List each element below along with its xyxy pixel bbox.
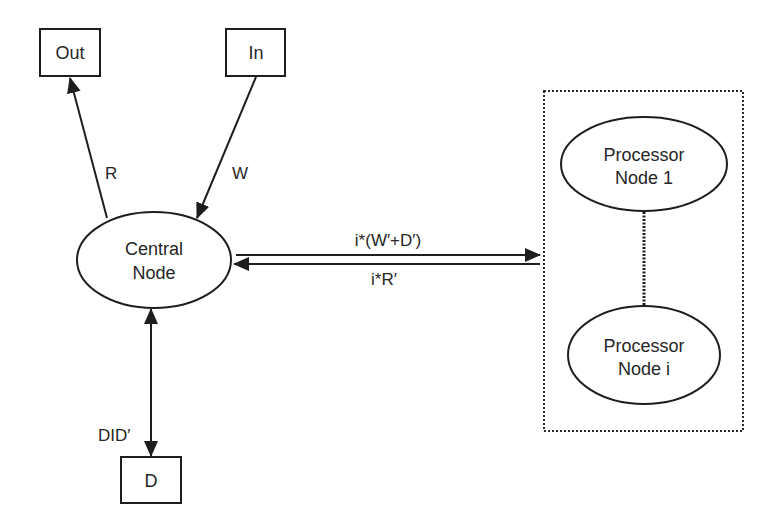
edge-label-read: i*R′ <box>371 270 397 289</box>
processor-node-1-line1: Processor <box>603 145 684 165</box>
processor-node-1-line2: Node 1 <box>615 168 673 188</box>
arrow-down-icon <box>197 77 256 218</box>
d-node-label: D <box>145 471 158 491</box>
central-node-line2: Node <box>132 263 175 283</box>
edge-processors-to-central: i*R′ <box>234 264 540 289</box>
in-node-label: In <box>248 43 263 63</box>
out-node-label: Out <box>55 43 84 63</box>
processor-group: Processor Node 1 Processor Node i <box>544 91 743 431</box>
processor-node-1: Processor Node 1 <box>561 117 727 211</box>
d-node: D <box>121 457 181 503</box>
out-node: Out <box>40 29 100 76</box>
edge-label-write: i*(W′+D′) <box>355 231 421 250</box>
processor-node-i-line1: Processor <box>603 336 684 356</box>
system-diagram: Out In R W Central Node i*(W′+D′) i*R′ D… <box>0 0 782 529</box>
edge-label-r: R <box>105 164 117 183</box>
edge-central-to-out: R <box>70 78 117 218</box>
central-node: Central Node <box>77 212 231 308</box>
edge-central-to-processors: i*(W′+D′) <box>236 231 540 255</box>
edge-label-did: DID′ <box>98 426 130 445</box>
in-node: In <box>226 29 285 76</box>
arrow-up-icon <box>70 78 107 218</box>
edge-in-to-central: W <box>197 77 256 218</box>
central-node-line1: Central <box>125 239 183 259</box>
edge-label-w: W <box>232 164 248 183</box>
processor-node-i: Processor Node i <box>568 306 720 404</box>
edge-central-d: DID′ <box>98 309 151 456</box>
processor-node-i-line2: Node i <box>618 359 670 379</box>
